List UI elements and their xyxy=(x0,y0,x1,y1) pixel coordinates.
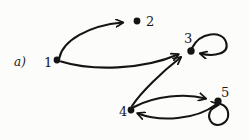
node-label-4: 4 xyxy=(119,105,127,118)
node-dot-3[interactable] xyxy=(187,47,194,54)
self-loop-node-3 xyxy=(192,34,227,55)
graph-svg xyxy=(0,0,249,140)
node-label-3: 3 xyxy=(184,32,192,45)
graph-diagram-canvas: a) 1 2 3 4 5 xyxy=(0,0,249,140)
edge-4-to-5 xyxy=(134,96,206,107)
edge-1-to-3 xyxy=(61,55,178,68)
panel-label: a) xyxy=(14,56,26,68)
node-dot-2[interactable] xyxy=(134,18,141,25)
edge-5-to-4 xyxy=(138,105,216,119)
edges-layer xyxy=(60,23,229,125)
node-label-5: 5 xyxy=(221,86,229,99)
node-label-1: 1 xyxy=(44,56,52,69)
node-dot-4[interactable] xyxy=(128,107,135,114)
edge-1-to-2 xyxy=(60,23,123,58)
node-dot-1[interactable] xyxy=(54,57,61,64)
node-label-2: 2 xyxy=(146,15,154,28)
self-loop-node-5 xyxy=(209,104,228,125)
